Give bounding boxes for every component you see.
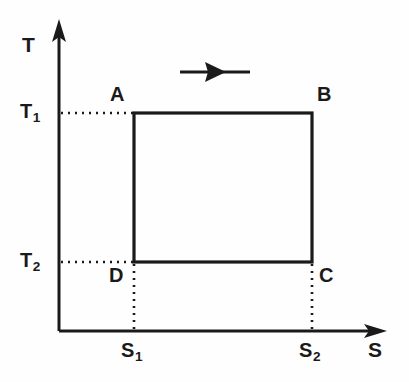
tick-label-t2-base: T [20, 249, 32, 271]
diagram-canvas [0, 0, 409, 382]
tick-label-t1-sub: 1 [33, 110, 41, 125]
tick-label-t2-sub: 2 [33, 259, 41, 274]
point-label-d: D [109, 265, 123, 285]
tick-label-s1-base: S [121, 339, 134, 361]
point-label-a: A [110, 84, 124, 104]
entropy-axis [59, 324, 387, 338]
direction-arrow [180, 62, 250, 82]
temperature-axis [52, 19, 66, 331]
point-label-c: C [319, 265, 333, 285]
direction-arrow-head-icon [205, 62, 226, 82]
tick-label-s2-base: S [299, 339, 312, 361]
x-axis-label: S [368, 339, 382, 360]
tick-label-t1: T1 [20, 101, 40, 121]
tick-label-t2: T2 [20, 250, 40, 270]
tick-label-s1: S1 [121, 340, 142, 360]
tick-label-t1-base: T [20, 100, 32, 122]
carnot-cycle-path [134, 113, 312, 262]
ts-diagram-figure: T S T1 T2 S1 S2 A B C D [0, 0, 409, 382]
y-axis-label: T [22, 34, 35, 55]
tick-label-s2: S2 [299, 340, 320, 360]
tick-label-s2-sub: 2 [313, 349, 321, 364]
guide-lines [61, 113, 312, 330]
point-label-b: B [317, 84, 331, 104]
tick-label-s1-sub: 1 [135, 349, 143, 364]
